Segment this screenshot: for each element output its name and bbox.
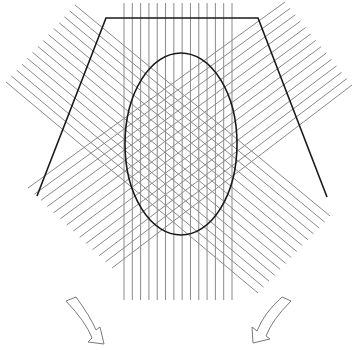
hatch-line <box>28 2 285 188</box>
vertical-line-band <box>124 3 232 300</box>
right-curved-arrow-icon <box>252 297 291 343</box>
hatch-line <box>54 29 308 240</box>
diagram-svg <box>0 0 352 350</box>
diagram-canvas: Schematic of three sets of parallel line… <box>0 0 352 350</box>
hatch-line <box>34 8 290 194</box>
hatch-line <box>60 34 310 219</box>
left-curved-arrow-icon <box>66 297 104 344</box>
hatch-line <box>41 15 295 201</box>
hatch-line <box>99 72 342 255</box>
hatch-line <box>70 11 325 222</box>
